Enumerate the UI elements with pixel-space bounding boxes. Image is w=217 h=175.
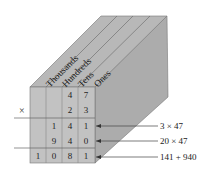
annotation-sum: 141 + 940	[160, 152, 197, 162]
digit-cell: 7	[78, 90, 94, 100]
multiply-sign: ×	[19, 106, 25, 116]
digit-cell: 1	[46, 121, 62, 131]
digit-cell: 4	[62, 90, 78, 100]
digit-cell: 1	[78, 151, 94, 161]
annotation-partial-1: 3 × 47	[160, 121, 183, 131]
digit-cell: 4	[62, 136, 78, 146]
digit-cell: 8	[62, 151, 78, 161]
annotation-partial-2: 20 × 47	[160, 136, 188, 146]
digit-cell: 3	[78, 105, 94, 115]
digit-cell: 9	[46, 136, 62, 146]
place-value-diagram: Thousands Hundreds Tens Ones × 4 7 2 3 1…	[0, 0, 217, 175]
box-shape	[0, 0, 217, 175]
digit-cell: 1	[78, 121, 94, 131]
digit-cell: 1	[30, 151, 46, 161]
digit-cell: 4	[62, 121, 78, 131]
digit-cell: 0	[78, 136, 94, 146]
digit-cell: 0	[46, 151, 62, 161]
digit-cell: 2	[62, 105, 78, 115]
